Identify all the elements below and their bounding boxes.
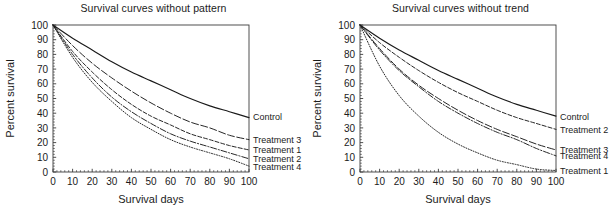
y-tick-label: 80 <box>344 49 356 60</box>
x-tick-label: 90 <box>531 176 543 187</box>
y-tick-label: 90 <box>344 34 356 45</box>
chart-panel-right: Survival curves without trend 0102030405… <box>307 0 614 217</box>
survival-curves-figure: Survival curves without pattern 01020304… <box>0 0 614 217</box>
y-tick-label: 100 <box>31 20 48 31</box>
y-tick-label: 100 <box>338 20 355 31</box>
series-label: Treatment 2 <box>560 125 608 135</box>
x-tick-label: 10 <box>67 176 79 187</box>
series-line <box>360 25 556 171</box>
series-line <box>360 25 556 116</box>
x-tick-label: 100 <box>548 176 565 187</box>
x-tick-label: 30 <box>106 176 118 187</box>
x-tick-label: 50 <box>145 176 157 187</box>
x-tick-label: 20 <box>87 176 99 187</box>
series-label: Control <box>253 112 282 122</box>
y-tick-label: 70 <box>344 64 356 75</box>
y-tick-label: 20 <box>37 137 49 148</box>
x-tick-label: 80 <box>204 176 216 187</box>
x-tick-label: 10 <box>374 176 386 187</box>
y-axis-label: Percent survival <box>4 59 16 137</box>
y-tick-label: 10 <box>344 152 356 163</box>
x-axis-label: Survival days <box>118 193 184 205</box>
plot-area-right: 0102030405060708090100010203040506070809… <box>307 0 614 217</box>
x-tick-label: 0 <box>50 176 56 187</box>
series-line <box>53 25 249 159</box>
y-axis-label: Percent survival <box>311 59 323 137</box>
chart-panel-left: Survival curves without pattern 01020304… <box>0 0 307 217</box>
y-tick-label: 30 <box>344 123 356 134</box>
x-tick-label: 100 <box>241 176 258 187</box>
axes-frame <box>360 25 556 172</box>
plot-area-left: 0102030405060708090100010203040506070809… <box>0 0 307 217</box>
y-tick-label: 60 <box>37 78 49 89</box>
x-tick-label: 70 <box>185 176 197 187</box>
x-axis-label: Survival days <box>425 193 491 205</box>
x-tick-label: 20 <box>394 176 406 187</box>
series-line <box>53 25 249 166</box>
y-tick-label: 50 <box>344 93 356 104</box>
x-tick-label: 40 <box>126 176 138 187</box>
y-tick-label: 0 <box>42 167 48 178</box>
y-tick-label: 40 <box>344 108 356 119</box>
y-tick-label: 90 <box>37 34 49 45</box>
y-tick-label: 0 <box>349 167 355 178</box>
series-label: Treatment 3 <box>253 135 301 145</box>
x-tick-label: 80 <box>511 176 523 187</box>
y-tick-label: 40 <box>37 108 49 119</box>
y-tick-label: 50 <box>37 93 49 104</box>
series-line <box>53 25 249 140</box>
y-tick-label: 20 <box>344 137 356 148</box>
y-tick-label: 10 <box>37 152 49 163</box>
y-tick-label: 70 <box>37 64 49 75</box>
x-tick-label: 90 <box>224 176 236 187</box>
x-tick-label: 70 <box>492 176 504 187</box>
y-tick-label: 30 <box>37 123 49 134</box>
x-tick-label: 60 <box>472 176 484 187</box>
x-tick-label: 30 <box>413 176 425 187</box>
x-tick-label: 0 <box>357 176 363 187</box>
series-label: Treatment 1 <box>560 166 608 176</box>
x-tick-label: 60 <box>165 176 177 187</box>
y-tick-label: 80 <box>37 49 49 60</box>
x-tick-label: 50 <box>452 176 464 187</box>
x-tick-label: 40 <box>433 176 445 187</box>
series-label: Treatment 4 <box>253 162 301 172</box>
series-label: Control <box>560 112 589 122</box>
series-label: Treatment 4 <box>560 151 608 161</box>
y-tick-label: 60 <box>344 78 356 89</box>
